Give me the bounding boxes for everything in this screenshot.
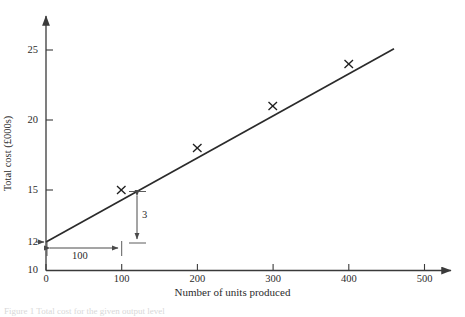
y-tick-label-10: 10 [16, 265, 38, 276]
x-axis-title: Number of units produced [0, 286, 465, 298]
data-markers [117, 60, 353, 194]
figure-caption: Figure 1 Total cost for the given output… [4, 306, 444, 316]
data-point-300-21 [269, 102, 278, 110]
x-tick-label-500: 500 [417, 274, 433, 285]
y-tick-label-12: 12 [16, 237, 38, 248]
fit-line [46, 49, 394, 242]
annotation-rise-label: 3 [142, 210, 147, 221]
x-tick-label-400: 400 [341, 274, 357, 285]
y-tick-label-25: 25 [16, 45, 38, 56]
x-tick-label-200: 200 [190, 274, 206, 285]
data-point-200-18 [193, 144, 202, 152]
y-tick-label-20: 20 [16, 115, 38, 126]
y-axis [46, 16, 53, 271]
chart-canvas [0, 0, 465, 317]
x-tick-label-300: 300 [265, 274, 281, 285]
y-axis-title: Total cost (£000s) [2, 116, 13, 192]
x-tick-label-0: 0 [43, 274, 48, 285]
annotation-run-label: 100 [72, 251, 88, 262]
x-tick-label-100: 100 [114, 274, 130, 285]
y-tick-label-15: 15 [16, 185, 38, 196]
data-point-100-15 [117, 186, 126, 194]
data-point-400-24 [345, 60, 354, 68]
chart-figure: 25 20 15 12 10 0 100 200 300 400 500 Tot… [0, 0, 465, 317]
x-axis [46, 264, 451, 271]
